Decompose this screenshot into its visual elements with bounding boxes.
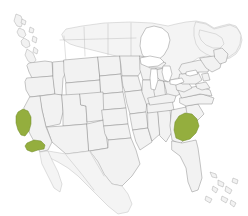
- state-oklahoma: [104, 124, 131, 140]
- state-north-dakota: [98, 56, 121, 76]
- state-montana: [64, 57, 100, 83]
- state-washington: [27, 61, 53, 78]
- state-oregon: [25, 76, 55, 97]
- state-nebraska: [101, 92, 126, 110]
- state-kansas: [102, 108, 128, 126]
- map-canvas: [0, 0, 248, 216]
- state-minnesota: [120, 56, 143, 76]
- state-south-dakota: [100, 74, 123, 94]
- distribution-map-figure: North America distribution map: [0, 0, 248, 216]
- state-arkansas: [130, 112, 148, 130]
